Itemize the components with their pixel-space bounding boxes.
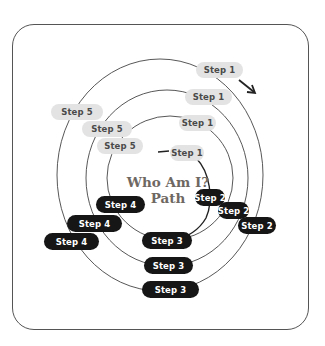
step4-second-pill[interactable]: Step 4 — [67, 215, 122, 232]
step5-third-pill[interactable]: Step 5 — [97, 138, 143, 154]
step3-second-pill[interactable]: Step 3 — [144, 257, 193, 274]
step3-outer-pill[interactable]: Step 3 — [142, 281, 199, 298]
step4-outer-pill[interactable]: Step 4 — [44, 233, 99, 250]
step4-third-pill[interactable]: Step 4 — [96, 196, 145, 213]
title-line-1: Who Am I? — [118, 174, 218, 190]
clockwise-arrow-icon — [239, 80, 255, 93]
step3-third-pill[interactable]: Step 3 — [142, 232, 192, 249]
step1-third-pill[interactable]: Step 1 — [179, 115, 216, 131]
step2-outer-pill[interactable]: Step 2 — [238, 217, 276, 234]
step5-outer-pill[interactable]: Step 5 — [51, 104, 103, 120]
step1-inner-pill[interactable]: Step 1 — [170, 145, 204, 161]
step1-outer-pill[interactable]: Step 1 — [196, 62, 243, 78]
step1-second-pill[interactable]: Step 1 — [185, 89, 232, 105]
step5-second-pill[interactable]: Step 5 — [82, 121, 132, 137]
